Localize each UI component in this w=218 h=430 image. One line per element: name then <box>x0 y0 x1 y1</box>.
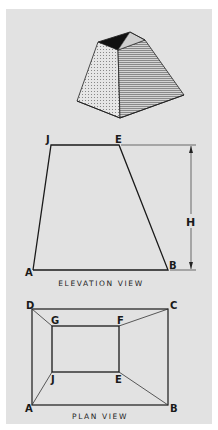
elevation-view-caption: ELEVATION VIEW <box>58 279 143 288</box>
label-elev-J: J <box>45 134 50 145</box>
label-plan-F: F <box>117 315 124 326</box>
label-height-H: H <box>186 216 195 229</box>
label-plan-A: A <box>25 403 33 414</box>
label-elev-B: B <box>169 260 177 271</box>
label-plan-D: D <box>26 300 34 311</box>
label-plan-G: G <box>51 315 59 326</box>
label-plan-J: J <box>50 374 55 385</box>
labels-layer: J E H A B ELEVATION VIEW D C G F J E A B… <box>0 0 218 430</box>
label-plan-C: C <box>170 300 177 311</box>
label-plan-E: E <box>115 374 122 385</box>
label-elev-A: A <box>25 267 33 278</box>
label-elev-E: E <box>115 134 122 145</box>
plan-view-caption: PLAN VIEW <box>72 412 128 421</box>
label-plan-B: B <box>170 403 178 414</box>
